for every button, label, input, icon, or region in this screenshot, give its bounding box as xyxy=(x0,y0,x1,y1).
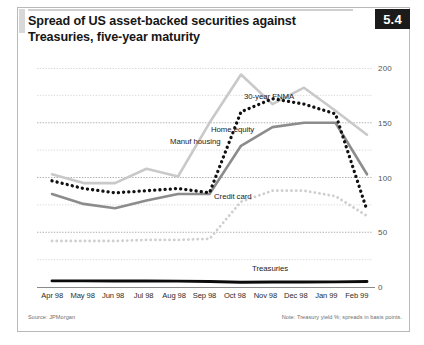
title-top-rule xyxy=(28,9,353,11)
x-axis-line xyxy=(37,287,375,288)
source-note: Source: JPMorgan xyxy=(28,314,75,320)
x-tick-nov-98: Nov 98 xyxy=(250,291,280,305)
series-line-manuf-housing xyxy=(52,123,367,209)
y-tick-150: 150 xyxy=(378,118,392,127)
series-label-manuf-housing: Manuf housing xyxy=(170,137,221,146)
exhibit-figure: 5.4 Spread of US asset-backed securities… xyxy=(0,0,424,345)
series-label-credit-card: Credit card xyxy=(214,192,252,201)
gridlines-major xyxy=(37,68,372,232)
chart-svg xyxy=(37,68,372,287)
series-label-home-equity: Home equity xyxy=(211,125,254,134)
y-tick-100: 100 xyxy=(378,173,392,182)
y-tick-50: 50 xyxy=(378,228,387,237)
figure-number-badge: 5.4 xyxy=(375,9,410,29)
x-tick-dec-98: Dec 98 xyxy=(281,291,311,305)
x-tick-may-98: May 98 xyxy=(67,291,97,305)
x-tick-sep-98: Sep 98 xyxy=(189,291,219,305)
y-tick-0: 0 xyxy=(378,283,383,292)
x-tick-oct-98: Oct 98 xyxy=(220,291,250,305)
series-line-credit-card xyxy=(52,191,367,241)
chart-plot-area: 30-year FNMA Home equity Manuf housing C… xyxy=(37,68,372,287)
figure-title: Spread of US asset-backed securities aga… xyxy=(28,13,338,45)
x-tick-jun-98: Jun 98 xyxy=(98,291,128,305)
left-rule-decoration xyxy=(19,9,25,33)
x-tick-feb-99: Feb 99 xyxy=(342,291,372,305)
chart-canvas xyxy=(37,68,372,287)
x-tick-jul-98: Jul 98 xyxy=(128,291,158,305)
x-tick-apr-98: Apr 98 xyxy=(37,291,67,305)
series-label-treasuries: Treasuries xyxy=(252,264,288,273)
footnote: Note: Treasury yield %; spreads in basis… xyxy=(282,314,402,320)
series-line-treasuries xyxy=(52,281,367,282)
x-axis-tick-labels: Apr 98 May 98 Jun 98 Jul 98 Aug 98 Sep 9… xyxy=(37,291,372,305)
x-tick-jan-99: Jan 99 xyxy=(311,291,341,305)
y-tick-200: 200 xyxy=(378,64,392,73)
gridlines-minor xyxy=(37,95,372,259)
x-tick-aug-98: Aug 98 xyxy=(159,291,189,305)
series-label-fnma: 30-year FNMA xyxy=(244,92,294,101)
series-line-fnma xyxy=(52,75,367,184)
